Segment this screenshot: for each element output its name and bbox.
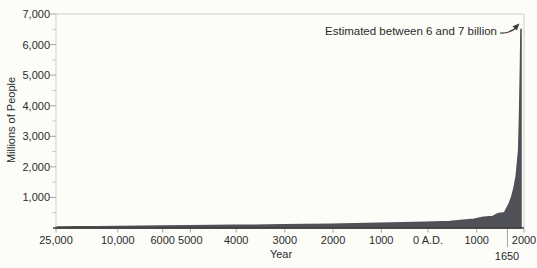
year-1650-marker-label: 1650 [495, 250, 519, 262]
y-tick-label: 6,000 [0, 39, 50, 51]
x-tick-label: 5000 [178, 234, 202, 246]
x-tick-label: 3000 [273, 234, 297, 246]
x-tick-label: 6000 [150, 234, 174, 246]
x-tick-label: 2000 [512, 234, 536, 246]
x-tick-label: 0 A.D. [413, 234, 443, 246]
population-growth-figure: 7,0006,0005,0004,0003,0002,0001,000 25,0… [0, 0, 537, 268]
x-tick-label: 25,000 [39, 234, 73, 246]
x-tick-label: 2000 [321, 234, 345, 246]
y-axis-title: Millions of People [5, 50, 17, 190]
x-tick-label: 10,000 [101, 234, 135, 246]
population-area [56, 29, 521, 228]
y-tick-label: 7,000 [0, 8, 50, 20]
y-tick-label: 1,000 [0, 191, 50, 203]
x-tick-label: 1000 [464, 234, 488, 246]
x-tick-label: 4000 [224, 234, 248, 246]
population-area-chart [0, 0, 537, 268]
x-tick-label: 1000 [369, 234, 393, 246]
peak-annotation: Estimated between 6 and 7 billion [325, 25, 497, 37]
x-axis-title: Year [270, 248, 292, 260]
